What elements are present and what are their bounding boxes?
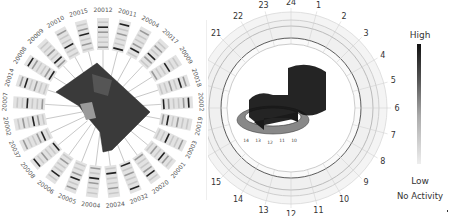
inner-hour-label: 10 <box>291 138 297 143</box>
zip-bar <box>13 106 84 131</box>
zip-label: 20005 <box>57 192 77 206</box>
zip-label: 20004 <box>141 14 161 29</box>
zip-label: 20024 <box>105 200 125 209</box>
activity-legend: High Low No Activity <box>395 30 445 200</box>
zip-label: 20010 <box>45 14 65 29</box>
hour-label: 23 <box>258 1 268 10</box>
hour-label: 22 <box>233 12 243 21</box>
hour-label: 14 <box>233 195 243 204</box>
zip-label: 20002 <box>2 116 12 136</box>
zip-label: 20004 <box>81 200 101 209</box>
inner-hour-label: 11 <box>279 138 285 143</box>
hour-label: 8 <box>380 157 385 166</box>
zip-label: 20014 <box>3 67 16 87</box>
zip-label: 20011 <box>117 6 137 18</box>
hour-label: 4 <box>380 51 385 60</box>
hour-label: 10 <box>339 195 349 204</box>
zip-label: 20009 <box>178 45 194 65</box>
dc-map <box>56 63 150 152</box>
zip-code-radial-diagram: 2001120004200172000920018200022001920003… <box>0 0 206 216</box>
hour-label: 13 <box>258 206 268 215</box>
zip-label: 20019 <box>193 116 203 136</box>
inner-hour-label: 13 <box>255 138 261 143</box>
hour-label: 12 <box>286 210 296 217</box>
legend-high-label: High <box>390 30 450 40</box>
zip-label: 20032 <box>129 191 149 205</box>
legend-gradient-bar <box>417 44 421 164</box>
hour-label: 9 <box>363 178 368 187</box>
legend-no-activity-label: No Activity <box>390 191 450 201</box>
corner-mark <box>447 210 448 212</box>
inner-hour-label: 12 <box>267 140 273 145</box>
hour-label: 1 <box>316 1 321 10</box>
zip-label: 20015 <box>68 6 88 18</box>
hour-label: 3 <box>363 29 368 38</box>
zip-label: 20018 <box>191 67 204 87</box>
zip-label: 20002 <box>198 92 206 112</box>
inner-hour-label: 14 <box>243 138 249 143</box>
hour-label: 2 <box>341 12 346 21</box>
zip-label: 20008 <box>11 45 27 65</box>
legend-low-label: Low <box>390 176 450 186</box>
zip-radial-svg: 2001120004200172000920018200022001920003… <box>0 0 206 216</box>
hour-label: 21 <box>211 29 221 38</box>
zip-label: 20007 <box>0 92 8 112</box>
panel-divider <box>206 20 207 200</box>
hour-label: 24 <box>286 0 296 7</box>
hour-label: 11 <box>313 206 323 215</box>
hour-label: 15 <box>211 178 221 187</box>
zip-label: 20012 <box>93 6 112 13</box>
